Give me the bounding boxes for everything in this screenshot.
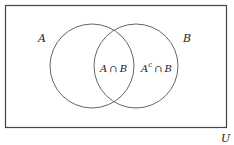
set-a-label: A xyxy=(37,32,46,45)
venn-svg: A B A∩B Ac∩B U xyxy=(0,0,234,145)
universe-label: U xyxy=(221,132,231,145)
complement-intersection-label: Ac∩B xyxy=(140,61,172,74)
set-b-label: B xyxy=(182,32,191,45)
intersection-label: A∩B xyxy=(99,63,127,74)
venn-diagram: A B A∩B Ac∩B U xyxy=(0,0,234,145)
